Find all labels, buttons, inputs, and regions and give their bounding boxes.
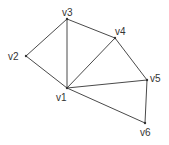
edge-group bbox=[26, 19, 147, 123]
label-group: v1v2v3v4v5v6 bbox=[8, 7, 161, 138]
vertex-label-v1: v1 bbox=[56, 92, 67, 103]
vertex-v5 bbox=[146, 79, 148, 81]
vertex-v4 bbox=[114, 37, 116, 39]
edge-v5-v6 bbox=[145, 80, 147, 123]
vertex-v3 bbox=[66, 18, 68, 20]
edge-v4-v5 bbox=[115, 38, 147, 80]
edge-v1-v5 bbox=[67, 80, 147, 88]
vertex-label-v3: v3 bbox=[62, 7, 73, 18]
edge-v1-v4 bbox=[67, 38, 115, 88]
edge-v2-v3 bbox=[26, 19, 67, 56]
vertex-v1 bbox=[66, 87, 68, 89]
vertex-label-v5: v5 bbox=[150, 73, 161, 84]
graph-diagram: v1v2v3v4v5v6 bbox=[0, 0, 169, 145]
vertex-group bbox=[25, 18, 148, 124]
vertex-label-v6: v6 bbox=[140, 127, 151, 138]
edge-v1-v6 bbox=[67, 88, 145, 123]
edge-v1-v2 bbox=[26, 56, 67, 88]
vertex-v6 bbox=[144, 122, 146, 124]
vertex-v2 bbox=[25, 55, 27, 57]
vertex-label-v4: v4 bbox=[115, 26, 126, 37]
edge-v3-v4 bbox=[67, 19, 115, 38]
vertex-label-v2: v2 bbox=[8, 51, 19, 62]
